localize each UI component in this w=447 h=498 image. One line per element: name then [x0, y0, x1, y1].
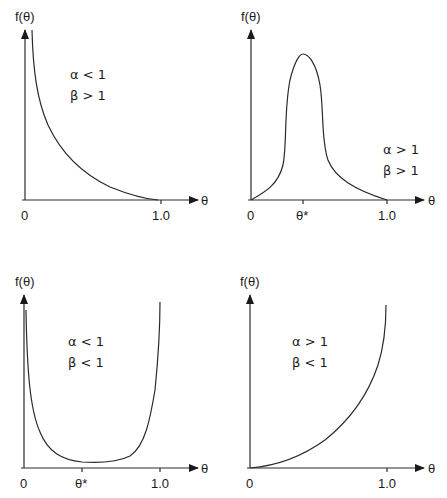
- beta-condition: β > 1: [70, 88, 106, 103]
- tick-label-1: 1.0: [378, 476, 396, 491]
- alpha-condition: α > 1: [292, 334, 328, 349]
- panel-bottom-left: f(θ) θ 0 θ* 1.0 α < 1 β < 1: [15, 274, 208, 491]
- panel-top-right: f(θ) θ 0 θ* 1.0 α > 1 β > 1: [241, 9, 435, 223]
- y-axis-label: f(θ): [241, 9, 261, 24]
- tick-label-0: 0: [247, 208, 254, 223]
- x-axis-label: θ: [428, 461, 435, 476]
- density-curve: [250, 305, 386, 468]
- y-axis-label: f(θ): [15, 274, 35, 289]
- beta-condition: β > 1: [383, 163, 419, 178]
- y-axis-label: f(θ): [240, 274, 260, 289]
- alpha-condition: α < 1: [68, 334, 104, 349]
- tick-label-theta-star: θ*: [75, 476, 87, 491]
- x-axis-label: θ: [428, 193, 435, 208]
- density-curve: [251, 54, 387, 200]
- tick-label-0: 0: [246, 476, 253, 491]
- tick-label-0: 0: [21, 208, 28, 223]
- density-curve: [32, 30, 158, 200]
- tick-label-1: 1.0: [152, 208, 170, 223]
- density-curve: [26, 302, 160, 462]
- alpha-condition: α > 1: [383, 142, 419, 157]
- x-axis-label: θ: [201, 461, 208, 476]
- beta-density-figure: f(θ) θ 0 1.0 α < 1 β > 1 f(θ) θ 0 θ* 1.0…: [0, 0, 447, 498]
- beta-condition: β < 1: [68, 355, 104, 370]
- alpha-condition: α < 1: [70, 67, 106, 82]
- panel-bottom-right: f(θ) θ 0 1.0 α > 1 β < 1: [240, 274, 435, 491]
- x-axis-label: θ: [201, 193, 208, 208]
- panel-top-left: f(θ) θ 0 1.0 α < 1 β > 1: [15, 9, 208, 223]
- beta-condition: β < 1: [292, 355, 328, 370]
- tick-label-1: 1.0: [378, 208, 396, 223]
- tick-label-1: 1.0: [151, 476, 169, 491]
- tick-label-theta-star: θ*: [296, 208, 308, 223]
- tick-label-0: 0: [20, 476, 27, 491]
- y-axis-label: f(θ): [15, 9, 35, 24]
